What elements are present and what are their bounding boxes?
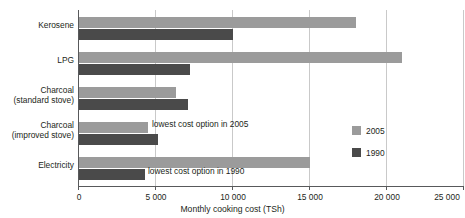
- category-label-lpg: LPG: [0, 55, 74, 65]
- bar-lpg-2005: [79, 52, 402, 63]
- bar-charcoal-improved-1990: [79, 134, 158, 145]
- bar-electricity-1990: [79, 169, 145, 180]
- bar-chart: Kerosene LPG Charcoal (standard stove) C…: [0, 0, 465, 218]
- legend-label-2005: 2005: [366, 126, 385, 136]
- legend-swatch-2005-icon: [352, 126, 361, 135]
- plot-area: [78, 10, 463, 186]
- category-label-charcoal-standard-line2: (standard stove): [0, 95, 74, 105]
- x-tick-label-5000: 5 000: [146, 192, 167, 202]
- gridline-25000: [463, 10, 464, 186]
- x-tick-20000: [386, 186, 387, 190]
- legend-swatch-1990-icon: [352, 148, 361, 157]
- bar-charcoal-improved-2005: [79, 122, 148, 133]
- x-tick-10000: [232, 186, 233, 190]
- bar-charcoal-standard-1990: [79, 99, 188, 110]
- category-label-electricity: Electricity: [0, 160, 74, 170]
- legend-item-1990[interactable]: 1990: [352, 146, 385, 159]
- category-label-charcoal-improved-line2: (improved stove): [0, 130, 74, 140]
- category-label-kerosene: Kerosene: [0, 20, 74, 30]
- bar-kerosene-2005: [79, 17, 356, 28]
- x-tick-label-25000: 25 000: [434, 192, 460, 202]
- annotation-lowest-cost-1990: lowest cost option in 1990: [148, 166, 244, 176]
- legend: 2005 1990: [352, 124, 385, 168]
- x-tick-25000: [463, 186, 464, 190]
- bar-charcoal-standard-2005: [79, 87, 176, 98]
- x-tick-label-15000: 15 000: [297, 192, 323, 202]
- bar-lpg-1990: [79, 64, 190, 75]
- x-tick-label-0: 0: [77, 192, 82, 202]
- x-axis-line: [78, 186, 463, 187]
- x-tick-0: [78, 186, 79, 190]
- x-tick-label-10000: 10 000: [220, 192, 246, 202]
- category-label-charcoal-standard-line1: Charcoal: [0, 85, 74, 95]
- category-axis-labels: Kerosene LPG Charcoal (standard stove) C…: [0, 8, 74, 186]
- legend-label-1990: 1990: [366, 148, 385, 158]
- bar-kerosene-1990: [79, 29, 233, 40]
- annotation-lowest-cost-2005: lowest cost option in 2005: [152, 119, 248, 129]
- gridline-20000: [386, 10, 387, 186]
- x-tick-label-20000: 20 000: [374, 192, 400, 202]
- x-axis-title: Monthly cooking cost (TSh): [0, 204, 465, 214]
- category-label-charcoal-improved-line1: Charcoal: [0, 120, 74, 130]
- x-tick-15000: [309, 186, 310, 190]
- x-tick-5000: [155, 186, 156, 190]
- legend-item-2005[interactable]: 2005: [352, 124, 385, 137]
